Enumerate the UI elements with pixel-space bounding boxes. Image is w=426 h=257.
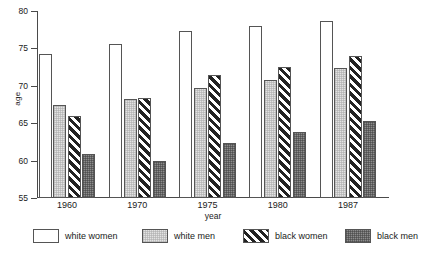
bar-white-men-1980 [264, 80, 277, 198]
y-tick-55 [31, 198, 37, 199]
bar-white-women-1960 [39, 54, 52, 198]
y-tick-label-70: 70 [0, 81, 28, 91]
x-tick-label-1975: 1975 [178, 200, 238, 210]
legend-swatch-black-men [345, 229, 371, 243]
bar-black-women-1960 [68, 116, 81, 198]
y-tick-65 [31, 123, 37, 124]
y-tick-label-65: 65 [0, 118, 28, 128]
y-tick-60 [31, 161, 37, 162]
bar-black-men-1960 [82, 154, 95, 198]
x-tick-label-1970: 1970 [107, 200, 167, 210]
y-tick-70 [31, 86, 37, 87]
bar-black-men-1970 [153, 161, 166, 198]
legend-swatch-black-women [243, 229, 269, 243]
bar-groups [38, 11, 389, 198]
legend-label-black-women: black women [275, 231, 328, 241]
bar-white-women-1980 [249, 26, 262, 198]
plot-area: age 556065707580 19601970197519801987 ye… [0, 0, 426, 215]
bar-black-women-1970 [138, 98, 151, 198]
y-tick-label-75: 75 [0, 43, 28, 53]
x-tick-label-1980: 1980 [248, 200, 308, 210]
bar-group-1987 [320, 11, 377, 198]
legend-label-white-women: white women [65, 231, 118, 241]
bar-black-women-1987 [349, 56, 362, 198]
legend-label-black-men: black men [377, 231, 418, 241]
y-tick-label-80: 80 [0, 6, 28, 16]
bar-white-men-1960 [53, 105, 66, 199]
x-tick-label-1987: 1987 [318, 200, 378, 210]
bar-black-men-1987 [363, 121, 376, 198]
bar-group-1975 [179, 11, 236, 198]
bar-white-men-1975 [194, 88, 207, 198]
bar-white-women-1987 [320, 21, 333, 198]
bar-white-men-1970 [124, 99, 137, 198]
bar-white-women-1975 [179, 31, 192, 198]
bar-black-men-1975 [223, 143, 236, 198]
y-tick-label-55: 55 [0, 193, 28, 203]
bar-chart: age 556065707580 19601970197519801987 ye… [0, 0, 426, 257]
x-tick-label-1960: 1960 [37, 200, 97, 210]
bar-black-women-1975 [208, 75, 221, 198]
bar-group-1960 [39, 11, 96, 198]
bar-group-1970 [109, 11, 166, 198]
legend-swatch-white-men [142, 229, 168, 243]
legend-swatch-white-women [33, 229, 59, 243]
y-tick-80 [31, 11, 37, 12]
bar-white-women-1970 [109, 44, 122, 198]
legend-label-white-men: white men [174, 231, 215, 241]
bar-group-1980 [249, 11, 306, 198]
bar-black-women-1980 [278, 67, 291, 198]
chart-legend: white womenwhite menblack womenblack men [0, 228, 426, 250]
x-axis-title: year [0, 211, 426, 221]
y-tick-label-60: 60 [0, 156, 28, 166]
bar-white-men-1987 [334, 68, 347, 198]
bar-black-men-1980 [293, 132, 306, 198]
y-tick-75 [31, 48, 37, 49]
